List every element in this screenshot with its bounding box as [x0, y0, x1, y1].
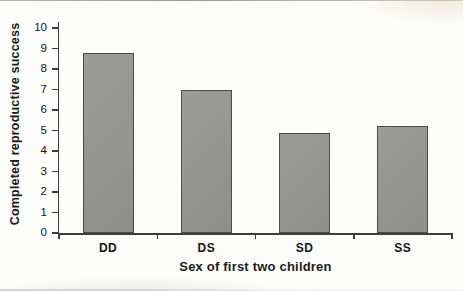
y-tick-mark: [52, 27, 58, 29]
y-tick-label: 7: [0, 83, 47, 95]
y-tick-label: 1: [0, 206, 47, 218]
x-category-label-SS: SS: [354, 241, 452, 255]
bar-SS: [377, 126, 428, 233]
scanned-bar-chart-figure: Completed reproductive success Sex of fi…: [0, 0, 463, 291]
y-tick-label: 5: [0, 124, 47, 136]
x-tick-mark: [58, 233, 60, 239]
y-tick-mark: [52, 130, 58, 132]
y-axis-line: [58, 22, 60, 235]
x-tick-mark: [451, 233, 453, 239]
y-tick-label: 2: [0, 185, 47, 197]
y-tick-label: 4: [0, 144, 47, 156]
y-tick-label: 0: [0, 226, 47, 238]
x-axis-title: Sex of first two children: [59, 259, 452, 274]
y-tick-mark: [52, 48, 58, 50]
y-tick-mark: [52, 150, 58, 152]
y-tick-label: 3: [0, 165, 47, 177]
y-tick-label: 8: [0, 62, 47, 74]
y-tick-label: 10: [0, 21, 47, 33]
x-category-label-SD: SD: [256, 241, 354, 255]
y-tick-mark: [52, 68, 58, 70]
x-category-label-DS: DS: [157, 241, 255, 255]
y-tick-label: 6: [0, 103, 47, 115]
x-tick-mark: [255, 233, 257, 239]
y-tick-mark: [52, 191, 58, 193]
y-tick-mark: [52, 109, 58, 111]
scan-top-edge-artifact: [0, 0, 463, 1]
x-category-label-DD: DD: [59, 241, 157, 255]
y-tick-mark: [52, 232, 58, 234]
y-tick-label: 9: [0, 42, 47, 54]
x-tick-mark: [157, 233, 159, 239]
bar-DS: [181, 90, 232, 234]
bar-SD: [279, 133, 330, 233]
x-tick-mark: [353, 233, 355, 239]
y-tick-mark: [52, 212, 58, 214]
y-tick-mark: [52, 171, 58, 173]
y-tick-mark: [52, 89, 58, 91]
bar-DD: [83, 53, 134, 233]
